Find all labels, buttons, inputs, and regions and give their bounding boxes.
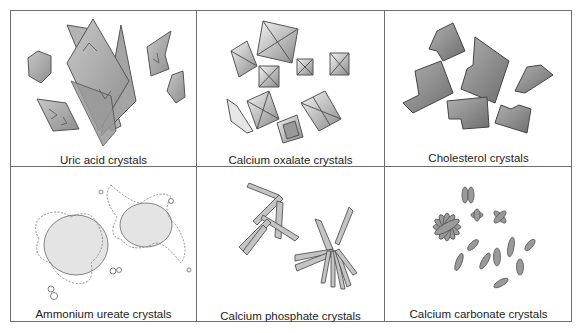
cholesterol-crystals-illustration [385, 11, 572, 166]
panel-calcium-oxalate: Calcium oxalate crystals [197, 11, 384, 166]
crystal-figure-grid: Uric acid crystals Calcium oxalate cryst… [10, 10, 572, 322]
ammonium-urate-crystals-illustration [11, 167, 196, 322]
panel-uric-acid: Uric acid crystals [11, 11, 196, 166]
panel-label: Cholesterol crystals [385, 152, 572, 164]
panel-label: Ammonium ureate crystals [11, 308, 196, 320]
calcium-oxalate-crystals-illustration [197, 11, 384, 166]
panel-label: Calcium oxalate crystals [197, 154, 384, 166]
panel-label: Calcium phosphate crystals [197, 310, 384, 322]
uric-acid-crystals-illustration [11, 11, 196, 166]
panel-cholesterol: Cholesterol crystals [385, 11, 572, 166]
panel-ammonium-urate: Ammonium ureate crystals [11, 167, 196, 322]
panel-calcium-carbonate: Calcium carbonate crystals [385, 167, 572, 322]
calcium-carbonate-crystals-illustration [385, 167, 572, 322]
calcium-phosphate-crystals-illustration [197, 167, 384, 322]
panel-label: Calcium carbonate crystals [385, 308, 572, 320]
panel-calcium-phosphate: Calcium phosphate crystals [197, 167, 384, 322]
panel-label: Uric acid crystals [11, 154, 196, 166]
